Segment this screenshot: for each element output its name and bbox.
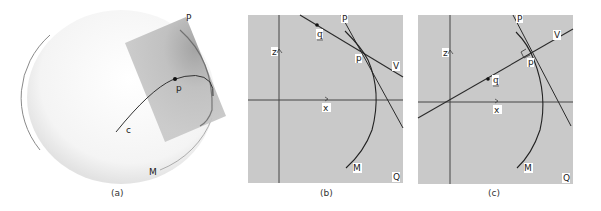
label-region-q: Q <box>393 172 400 182</box>
q-dot <box>315 23 319 27</box>
label-plane-p: P <box>342 14 348 24</box>
label-v: V <box>393 61 400 71</box>
label-curve-c: c <box>126 125 131 135</box>
panel-b-background <box>248 15 403 183</box>
label-surface-m: M <box>353 163 361 173</box>
label-region-q: Q <box>563 173 570 183</box>
panel-b: P q p V z x M Q (b) <box>248 14 403 198</box>
label-surface-m: M <box>149 167 157 177</box>
panel-c: P V p q z x M Q (c) <box>418 14 573 198</box>
point-p-dot <box>173 77 177 81</box>
caption-a: (a) <box>111 188 124 198</box>
label-surface-m: M <box>524 163 532 173</box>
label-p-point: p <box>176 83 182 93</box>
label-x-axis: x <box>323 103 329 113</box>
label-p-point: p <box>356 53 362 63</box>
label-q: q <box>493 75 499 85</box>
label-z-axis: z <box>272 47 277 57</box>
label-z-axis: z <box>443 48 448 58</box>
figure-canvas: p P c M (a) P q p V z x M Q <box>0 0 601 211</box>
panel-a: p P c M (a) <box>21 10 226 198</box>
caption-c: (c) <box>488 188 500 198</box>
q-dot <box>486 77 490 81</box>
label-x-axis: x <box>494 105 500 115</box>
caption-b: (b) <box>320 188 333 198</box>
label-plane-p: P <box>186 13 192 23</box>
label-p-point: p <box>528 57 534 67</box>
label-v: V <box>554 30 561 40</box>
label-plane-p: P <box>517 14 523 24</box>
label-q: q <box>317 29 323 39</box>
